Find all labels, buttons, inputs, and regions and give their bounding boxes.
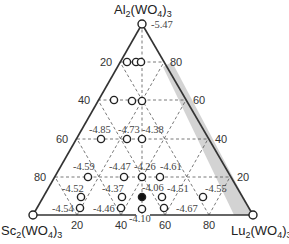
svg-text:40: 40 [78,94,90,106]
svg-text:20: 20 [237,171,249,183]
data-point [97,135,104,142]
svg-text:40: 40 [215,133,227,145]
data-point [84,173,91,180]
data-point [138,135,145,142]
svg-text:80: 80 [34,171,46,183]
data-point [117,204,124,211]
data-point [160,204,167,211]
vertex-label-lu2wo43: Lu2(WO4)3 [231,223,289,240]
svg-text:60: 60 [56,133,68,145]
data-point [123,58,130,65]
vertex-left-marker [29,211,37,219]
data-point [138,205,145,212]
data-point [123,135,130,142]
value-label: -4.73 [118,124,140,135]
data-point [137,58,144,65]
svg-text:20: 20 [71,219,83,231]
value-label: -4.46 [93,203,115,214]
value-label: -4.47 [109,161,131,172]
data-point [138,173,145,180]
svg-text:80: 80 [203,219,215,231]
data-point [156,173,163,180]
data-point [118,193,125,200]
value-label: -4.06 [142,182,164,193]
value-label: -4.37 [102,183,124,194]
data-point [120,173,127,180]
data-point [138,97,145,104]
svg-text:80: 80 [170,56,182,68]
ternary-diagram: Al2(WO4)3 Sc2(WO4)3 Lu2(WO4)3 20 40 60 8… [0,0,289,244]
value-label: -4.85 [89,124,111,135]
value-label: -4.59 [73,161,95,172]
svg-text:20: 20 [100,56,112,68]
data-point [158,193,165,200]
value-label: -4.52 [62,183,84,194]
svg-text:60: 60 [159,219,171,231]
data-point-filled [138,193,145,200]
vertex-top-marker [138,20,146,28]
data-point [128,97,135,104]
vertex-right-marker [249,211,257,219]
svg-text:60: 60 [193,94,205,106]
value-label: -4.55 [205,183,227,194]
data-point [110,96,117,103]
data-point [199,193,206,200]
value-label: -5.47 [151,19,173,30]
data-point [76,204,83,211]
value-label: -4.61 [160,161,182,172]
value-label: -4.10 [129,213,151,224]
vertex-label-al2wo43: Al2(WO4)3 [114,2,172,19]
value-label: -4.51 [167,183,189,194]
value-label: -4.26 [134,161,156,172]
value-label: -4.38 [142,124,164,135]
vertex-label-sc2wo43: Sc2(WO4)3 [1,223,62,240]
value-label: -4.54 [52,203,75,214]
svg-text:40: 40 [115,219,127,231]
value-label: -4.67 [176,203,198,214]
data-point [77,193,84,200]
